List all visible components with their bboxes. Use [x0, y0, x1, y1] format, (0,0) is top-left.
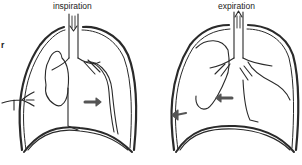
expiration-panel: [171, 11, 298, 152]
inspiration-panel: [2, 14, 136, 152]
lungs-diagram: [0, 0, 302, 165]
